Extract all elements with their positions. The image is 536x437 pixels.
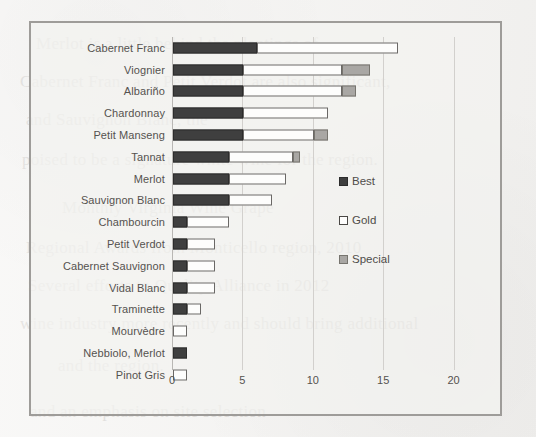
legend-item-best: Best <box>339 175 390 187</box>
bar-row: Albariño <box>31 81 500 103</box>
bar-segment-special <box>342 86 356 97</box>
stacked-bar <box>173 151 300 162</box>
bar-segment-gold <box>187 304 201 315</box>
legend-swatch-best-icon <box>339 177 348 186</box>
legend-label: Gold <box>352 214 376 226</box>
bar-row: Chardonnay <box>31 102 500 124</box>
legend-label: Best <box>352 175 375 187</box>
category-label: Sauvignon Blanc <box>31 194 165 206</box>
bar-segment-best <box>173 239 187 250</box>
category-label: Petit Verdot <box>31 238 165 250</box>
category-label: Nebbiolo, Merlot <box>31 347 165 359</box>
bar-segment-special <box>342 64 370 75</box>
x-axis-tick-labels: 05101520 <box>31 374 500 390</box>
category-label: Chardonnay <box>31 107 165 119</box>
stacked-bar <box>173 86 356 97</box>
category-label: Traminette <box>31 303 165 315</box>
bar-segment-gold <box>243 64 342 75</box>
x-tick-label: 15 <box>377 374 389 386</box>
legend-swatch-special-icon <box>339 255 348 264</box>
bar-row: Mourvèdre <box>31 320 500 342</box>
stacked-bar <box>173 260 215 271</box>
bar-segment-gold <box>187 217 229 228</box>
bar-row: Petit Manseng <box>31 124 500 146</box>
bar-row: Chambourcin <box>31 211 500 233</box>
bar-segment-best <box>173 173 229 184</box>
stacked-bar <box>173 108 328 119</box>
bar-row: Cabernet Franc <box>31 37 500 59</box>
bar-segment-best <box>173 195 229 206</box>
category-label: Vidal Blanc <box>31 282 165 294</box>
bar-row: Merlot <box>31 168 500 190</box>
bar-row: Viognier <box>31 59 500 81</box>
category-label: Cabernet Sauvignon <box>31 260 165 272</box>
category-label: Tannat <box>31 151 165 163</box>
bar-segment-best <box>173 304 187 315</box>
stacked-bar <box>173 173 286 184</box>
legend-swatch-gold-icon <box>339 216 348 225</box>
bar-segment-best <box>173 282 187 293</box>
legend-item-gold: Gold <box>339 214 390 226</box>
bar-segment-gold <box>243 108 327 119</box>
category-label: Chambourcin <box>31 216 165 228</box>
bar-row: Traminette <box>31 299 500 321</box>
bar-row: Nebbiolo, Merlot <box>31 342 500 364</box>
category-label: Petit Manseng <box>31 129 165 141</box>
bar-segment-special <box>314 130 328 141</box>
category-label: Albariño <box>31 85 165 97</box>
bar-row: Cabernet Sauvignon <box>31 255 500 277</box>
plot-area: Cabernet FrancViognierAlbariñoChardonnay… <box>31 23 500 414</box>
stacked-bar <box>173 42 398 53</box>
bar-rows: Cabernet FrancViognierAlbariñoChardonnay… <box>31 37 500 370</box>
bar-segment-gold <box>187 282 215 293</box>
bar-segment-gold <box>243 86 342 97</box>
bar-segment-gold <box>229 173 285 184</box>
stacked-bar <box>173 195 272 206</box>
bar-segment-best <box>173 151 229 162</box>
x-tick-label: 10 <box>307 374 319 386</box>
stacked-bar <box>173 130 328 141</box>
bar-segment-best <box>173 86 243 97</box>
category-label: Merlot <box>31 173 165 185</box>
stacked-bar <box>173 348 187 359</box>
chart-frame: Cabernet FrancViognierAlbariñoChardonnay… <box>29 21 502 416</box>
x-tick-label: 0 <box>169 374 175 386</box>
legend-item-special: Special <box>339 253 390 265</box>
x-tick-label: 20 <box>447 374 459 386</box>
bar-segment-best <box>173 348 187 359</box>
bar-segment-gold <box>229 195 271 206</box>
stacked-bar <box>173 239 215 250</box>
bar-segment-gold <box>243 130 313 141</box>
stacked-bar <box>173 64 370 75</box>
bar-row: Vidal Blanc <box>31 277 500 299</box>
stacked-bar <box>173 217 229 228</box>
bar-segment-gold <box>187 260 215 271</box>
bar-segment-best <box>173 217 187 228</box>
bar-segment-gold <box>173 326 187 337</box>
chart-legend: BestGoldSpecial <box>339 175 390 292</box>
stacked-bar <box>173 326 187 337</box>
bar-segment-special <box>293 151 300 162</box>
bar-row: Sauvignon Blanc <box>31 190 500 212</box>
bar-segment-best <box>173 130 243 141</box>
bar-segment-gold <box>257 42 398 53</box>
bar-row: Tannat <box>31 146 500 168</box>
legend-label: Special <box>352 253 390 265</box>
bar-segment-gold <box>229 151 292 162</box>
stacked-bar <box>173 282 215 293</box>
bar-segment-gold <box>187 239 215 250</box>
bar-segment-best <box>173 260 187 271</box>
stacked-bar <box>173 304 201 315</box>
bar-segment-best <box>173 42 257 53</box>
bar-row: Petit Verdot <box>31 233 500 255</box>
x-tick-label: 5 <box>239 374 245 386</box>
category-label: Viognier <box>31 64 165 76</box>
bar-segment-best <box>173 108 243 119</box>
category-label: Mourvèdre <box>31 325 165 337</box>
category-label: Cabernet Franc <box>31 42 165 54</box>
bar-segment-best <box>173 64 243 75</box>
